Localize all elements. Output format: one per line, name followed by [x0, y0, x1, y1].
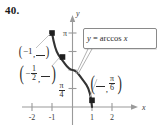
- fraction-one-half: 1 2: [31, 65, 37, 82]
- point-label-neg-half: ( − 1 2 , ): [18, 62, 57, 84]
- point-label-pi-over-6: ( , π 6 ): [89, 72, 123, 94]
- equation-equals-sign: =: [93, 33, 98, 43]
- open-paren: (: [19, 44, 23, 59]
- point-marker-neg-one: [49, 30, 55, 36]
- x-tick-label-pos1: 1: [90, 113, 94, 122]
- coordinate-x-blank: [96, 79, 105, 87]
- y-axis-arrowhead: [70, 15, 75, 22]
- close-paren: ): [46, 44, 50, 59]
- open-paren: (: [90, 72, 94, 94]
- x-axis-arrowhead: [131, 104, 138, 109]
- coordinate-comma: ,: [106, 85, 108, 94]
- fraction-numerator: 1: [31, 65, 37, 73]
- fraction-numerator: π: [109, 75, 115, 83]
- figure-container: 40.: [0, 0, 157, 135]
- y-tick-label-pi-over-4: π 4: [58, 82, 65, 99]
- fraction-pi-over-6: π 6: [109, 75, 115, 92]
- x-tick-label-neg2: -2: [29, 113, 36, 122]
- fraction-denominator: 4: [59, 90, 65, 99]
- fraction-denominator: 6: [109, 83, 115, 92]
- fraction-denominator: 2: [31, 73, 37, 82]
- x-tick-label-neg1: -1: [49, 113, 56, 122]
- equation-callout-label: y = arccos x: [87, 33, 127, 43]
- point-marker-one-zero: [89, 98, 95, 104]
- y-axis-label: y: [75, 9, 80, 18]
- point-label-neg-one: ( −1 , ): [18, 44, 50, 59]
- coordinate-y-blank: [36, 48, 45, 56]
- open-paren: (: [19, 62, 23, 84]
- equation-y-variable: y: [87, 33, 91, 43]
- x-tick-label-pos2: 2: [110, 113, 114, 122]
- callout-tail-left: [76, 49, 88, 74]
- fraction-numerator: π: [59, 82, 65, 90]
- close-paren: ): [51, 62, 55, 84]
- coordinate-x-sign: −: [25, 69, 30, 78]
- coordinate-x-value: −1: [23, 47, 33, 56]
- equation-function-name: arccos: [100, 33, 122, 43]
- fraction-pi-over-4: π 4: [59, 82, 65, 99]
- equation-x-variable: x: [124, 33, 128, 43]
- x-axis-label: x: [141, 103, 146, 112]
- y-tick-label-pi: π: [63, 29, 67, 38]
- close-paren: ): [117, 72, 121, 94]
- coordinate-y-blank: [41, 69, 50, 77]
- point-marker-neg-half: [60, 54, 66, 60]
